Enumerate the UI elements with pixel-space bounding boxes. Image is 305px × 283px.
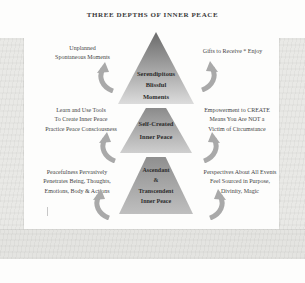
annotation-top-right: Gifts to Receive * Enjoy	[180, 47, 285, 56]
photo-margin-left	[0, 38, 24, 232]
annotation-top-left: Unplanned Spontaneous Moments	[30, 44, 135, 63]
annotation-bottom-right: Perspectives About All Events Feel Sourc…	[184, 168, 296, 196]
page-title: THREE DEPTHS OF INNER PEACE	[0, 11, 305, 19]
pyramid-level-middle-label: Self-Created Inner Peace	[139, 118, 174, 143]
pyramid-level-top: Serendipitous Blissful Moments	[118, 32, 194, 104]
page-artifact-mark	[47, 207, 48, 216]
pyramid-level-bottom-label: Ascendant & Transcendent Inner Peace	[139, 165, 174, 206]
annotation-bottom-left: Peacefulness Pervasively Penetrates Bein…	[18, 168, 136, 196]
photo-margin-bottom	[0, 229, 305, 259]
curved-up-arrow-icon	[91, 188, 113, 220]
photo-margin-right	[279, 38, 305, 232]
curved-up-arrow-icon	[95, 61, 117, 93]
diagram-page: THREE DEPTHS OF INNER PEACE Serendipitou…	[0, 0, 305, 283]
curved-up-arrow-icon	[200, 131, 222, 163]
annotation-middle-right: Empowerment to CREATE Means You Are NOT …	[181, 106, 293, 134]
curved-up-arrow-icon	[206, 188, 228, 220]
pyramid-level-top-label: Serendipitous Blissful Moments	[137, 68, 175, 102]
curved-up-arrow-icon	[97, 131, 119, 163]
annotation-middle-left: Learn and Use Tools To Create Inner Peac…	[25, 106, 137, 134]
curved-up-arrow-icon	[198, 60, 220, 92]
